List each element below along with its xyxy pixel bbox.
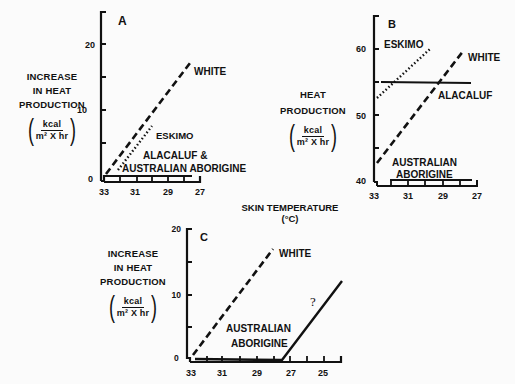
xtick-label: 27 <box>472 191 482 201</box>
series-label-aborigine: ABORIGINE <box>396 169 453 180</box>
series-label-alacaluf: ALACALUF & <box>143 150 207 161</box>
ytick-label: 40 <box>356 176 366 186</box>
series-label-aborigine: ABORIGINE <box>231 338 288 349</box>
ytick-label: 10 <box>172 290 182 300</box>
shared-xlabel: SKIN TEMPERATURE <box>242 202 339 213</box>
panel-b-letter: B <box>388 18 396 30</box>
xtick-label: 33 <box>186 368 196 378</box>
xtick-label: 27 <box>286 368 296 378</box>
question-annotation: ? <box>310 294 316 309</box>
xtick-label: 29 <box>163 187 173 197</box>
panel-a-x-axis <box>101 176 192 181</box>
panel-a-y-axis <box>101 12 106 181</box>
panel-a-letter: A <box>118 14 127 28</box>
panel-b-x-axis <box>374 182 377 186</box>
series-label-eskimo: ESKIMO <box>156 130 193 141</box>
ytick-label: 0 <box>88 174 93 184</box>
series-label-aborigine: AUSTRALIAN ABORIGINE <box>122 163 246 174</box>
ytick-label: 60 <box>356 44 366 54</box>
ytick-label: 50 <box>356 111 366 121</box>
series-white <box>377 50 464 163</box>
panel-b-y-axis <box>374 16 379 182</box>
series-label-aborigine: AUSTRALIAN <box>226 323 291 334</box>
xtick-label: 25 <box>318 368 328 378</box>
series-label-white: WHITE <box>194 66 227 77</box>
ytick-label: 20 <box>85 40 95 50</box>
series-label-white: WHITE <box>468 52 501 63</box>
ytick-label: 20 <box>172 224 182 234</box>
xtick-label: 29 <box>438 191 448 201</box>
series-label-aborigine: AUSTRALIAN <box>392 157 457 168</box>
series-label-white: WHITE <box>279 248 312 259</box>
ytick-label: 0 <box>174 353 179 363</box>
shared-xlabel-unit: (°C) <box>282 213 299 224</box>
xtick-label: 31 <box>217 368 227 378</box>
xtick-label: 33 <box>99 187 109 197</box>
series-label-alacaluf: ALACALUF <box>438 90 492 101</box>
panel-c-letter: C <box>200 231 208 243</box>
series-label-eskimo: ESKIMO <box>384 39 424 50</box>
xtick-label: 31 <box>403 191 413 201</box>
xtick-label: 27 <box>195 187 205 197</box>
xtick-label: 33 <box>369 191 379 201</box>
ytick-label: 10 <box>77 105 87 115</box>
figure-canvas: A 0 10 20 33 31 29 27 WHITE ESKIMO ALACA… <box>0 0 515 384</box>
series-eskimo <box>377 49 430 98</box>
xtick-label: 31 <box>130 187 140 197</box>
xtick-label: 29 <box>252 368 262 378</box>
